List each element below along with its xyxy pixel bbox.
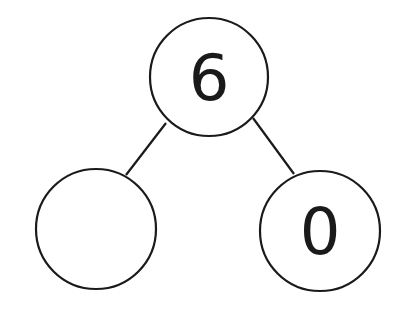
whole-value: 6 [189, 41, 230, 115]
whole-circle: 6 [150, 18, 268, 136]
right-part-value: 0 [300, 195, 341, 269]
left-connector [126, 123, 166, 175]
right-part-circle: 0 [260, 171, 380, 291]
number-bond-diagram: 6 0 [0, 0, 411, 317]
left-part-circle[interactable] [36, 169, 156, 289]
right-connector [253, 118, 294, 174]
